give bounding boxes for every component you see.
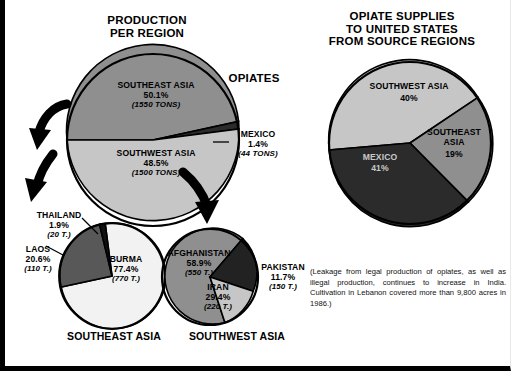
infographic-frame: PRODUCTION PER REGION OPIATES OPIATE SUP… [0,0,511,371]
supplies-label-mexico: MEXICO 41% [335,152,425,173]
supplies-label-southeast-asia: SOUTHEAST ASIA 19% [413,127,495,159]
caption-southwest-asia: SOUTHWEST ASIA [157,330,317,342]
arrow-to-southwest-asia-icon [177,168,239,236]
production-per-region-title: PRODUCTION PER REGION [67,14,227,39]
production-label-mexico: MEXICO 1.4% (44 TONS) [227,129,289,159]
swa-label-pakistan: PAKISTAN 11.7% (150 T.) [251,262,315,292]
supplies-mexico-pct: 41% [335,163,425,173]
mexico-pct: 1.4% [227,139,289,149]
pakistan-pct: 11.7% [251,272,315,282]
supplies-title-line-1: OPIATE SUPPLIES [302,10,502,23]
supplies-swa-name: SOUTHWEST ASIA [339,81,479,91]
laos-tons: (110 T.) [11,264,65,274]
supplies-sea-pct: 19% [413,149,495,159]
thailand-leader-line [81,216,105,238]
opiate-supplies-title: OPIATE SUPPLIES TO UNITED STATES FROM SO… [302,10,502,48]
afghanistan-name: AFGHANISTAN [161,248,237,258]
burma-pct: 77.4% [95,264,157,274]
production-title-line-1: PRODUCTION [67,14,227,27]
swa-pct: 48.5% [81,158,231,168]
sea-tons: (1550 TONS) [81,100,231,110]
mexico-name: MEXICO [227,129,289,139]
curved-arrow-lower-icon [25,154,53,202]
supplies-sea-name-l1: SOUTHEAST [413,127,495,137]
iran-name: IRAN [191,282,245,292]
pakistan-tons: (150 T.) [251,282,315,292]
afghanistan-pct: 58.9% [161,258,237,268]
iran-pct: 29.4% [191,292,245,302]
swa-name: SOUTHWEST ASIA [81,148,231,158]
sea-name: SOUTHEAST ASIA [81,80,231,90]
leakage-note: (Leakage from legal production of opiate… [310,267,506,309]
burma-tons: (770 T.) [95,274,157,284]
supplies-title-line-2: TO UNITED STATES [302,23,502,36]
supplies-mexico-name: MEXICO [335,152,425,162]
supplies-label-southwest-asia: SOUTHWEST ASIA 40% [339,81,479,103]
swa-label-iran: IRAN 29.4% (220 T.) [191,282,245,312]
laos-leader-line [45,244,69,260]
afghanistan-tons: (550 T.) [161,268,237,278]
burma-name: BURMA [95,254,157,264]
mexico-tons: (44 TONS) [227,149,289,159]
supplies-title-line-3: FROM SOURCE REGIONS [302,35,502,48]
swa-label-afghanistan: AFGHANISTAN 58.9% (550 T.) [161,248,237,278]
pakistan-name: PAKISTAN [251,262,315,272]
sea-label-burma: BURMA 77.4% (770 T.) [95,254,157,284]
iran-tons: (220 T.) [191,302,245,312]
curved-arrow-upper-icon [29,104,67,150]
production-title-line-2: PER REGION [67,27,227,40]
supplies-swa-pct: 40% [339,93,479,103]
sea-pct: 50.1% [81,90,231,100]
production-label-southeast-asia: SOUTHEAST ASIA 50.1% (1550 TONS) [81,80,231,110]
supplies-sea-name-l2: ASIA [413,137,495,147]
arrow-to-southeast-asia-group [17,98,87,208]
